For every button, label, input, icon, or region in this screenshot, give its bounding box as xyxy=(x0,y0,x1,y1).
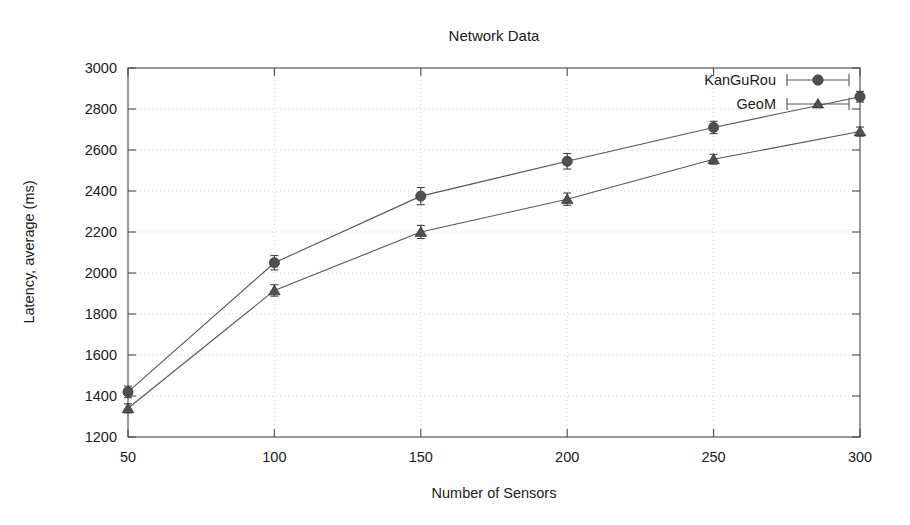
y-tick-label: 2000 xyxy=(85,265,117,281)
x-tick-label: 100 xyxy=(262,449,286,465)
circle-marker-icon xyxy=(123,387,133,397)
y-tick-label: 1600 xyxy=(85,347,117,363)
y-tick-label: 3000 xyxy=(85,60,117,76)
chart-figure: Network Data 120014001600180020002200240… xyxy=(0,0,910,525)
circle-marker-icon xyxy=(269,258,279,268)
circle-marker-icon xyxy=(562,156,572,166)
x-tick-label: 200 xyxy=(555,449,579,465)
legend-label-geom: GeoM xyxy=(737,96,777,112)
y-axis-label: Latency, average (ms) xyxy=(21,180,37,323)
circle-marker-icon xyxy=(709,122,719,132)
x-tick-label: 250 xyxy=(701,449,725,465)
x-axis-label: Number of Sensors xyxy=(432,485,557,501)
x-tick-label: 300 xyxy=(848,449,872,465)
network-data-line-chart: Network Data 120014001600180020002200240… xyxy=(0,0,910,525)
x-tick-label: 150 xyxy=(409,449,433,465)
circle-marker-icon xyxy=(416,191,426,201)
y-tick-label: 2600 xyxy=(85,142,117,158)
y-tick-label: 2200 xyxy=(85,224,117,240)
x-tick-label: 50 xyxy=(120,449,136,465)
legend-circle-marker-icon xyxy=(813,75,823,85)
y-tick-label: 1400 xyxy=(85,388,117,404)
circle-marker-icon xyxy=(855,92,865,102)
y-tick-label: 2400 xyxy=(85,183,117,199)
y-tick-label: 1200 xyxy=(85,429,117,445)
y-tick-label: 2800 xyxy=(85,101,117,117)
chart-title: Network Data xyxy=(449,27,541,44)
legend-label-kangurou: KanGuRou xyxy=(704,72,776,88)
y-tick-label: 1800 xyxy=(85,306,117,322)
